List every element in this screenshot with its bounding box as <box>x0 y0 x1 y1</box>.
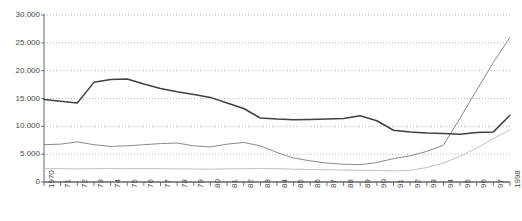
x-axis-tick-label: 83 <box>264 179 272 188</box>
x-axis-tick-label: 92 <box>414 179 422 188</box>
x-axis-tick-label: 1970 <box>48 170 56 188</box>
x-axis-tick-label: 94 <box>447 179 455 188</box>
x-axis-tick-label: 85 <box>297 179 305 188</box>
y-axis-tick-label: 20.000 <box>0 67 40 75</box>
x-axis-tick-label: 97 <box>497 179 505 188</box>
x-axis-tick-label: 88 <box>347 179 355 188</box>
data-series-line <box>44 130 510 171</box>
x-axis-tick-label: 71 <box>64 179 72 188</box>
x-axis-tick-label: 75 <box>131 179 139 188</box>
x-axis-tick-label: 79 <box>197 179 205 188</box>
data-series-line <box>44 79 510 134</box>
x-axis-tick-label: 81 <box>231 179 239 188</box>
x-axis-tick-label: 72 <box>81 179 89 188</box>
x-axis-tick-label: 80 <box>214 179 222 188</box>
x-axis-tick-label: 1998 <box>514 170 522 188</box>
y-axis-tick-label: 0 <box>0 178 40 186</box>
y-axis-tick-label: 25.000 <box>0 39 40 47</box>
x-axis-tick-label: 90 <box>380 179 388 188</box>
y-axis-tick-label: 15.000 <box>0 95 40 103</box>
x-axis-tick-label: 86 <box>314 179 322 188</box>
x-axis-tick-label: 82 <box>247 179 255 188</box>
y-axis-tick-label: 5.000 <box>0 150 40 158</box>
x-axis-tick-label: 89 <box>364 179 372 188</box>
x-axis-tick-label: 96 <box>480 179 488 188</box>
x-axis-tick-label: 95 <box>464 179 472 188</box>
x-axis-tick-label: 93 <box>430 179 438 188</box>
x-axis-tick-label: 77 <box>164 179 172 188</box>
x-axis-tick-label: 76 <box>147 179 155 188</box>
data-series-line <box>44 37 510 164</box>
x-axis-tick-label: 84 <box>281 179 289 188</box>
x-axis-tick-label: 78 <box>181 179 189 188</box>
y-axis-tick-label: 10.000 <box>0 122 40 130</box>
x-axis-tick-label: 73 <box>97 179 105 188</box>
x-axis-tick-label: 74 <box>114 179 122 188</box>
x-axis-tick-label: 91 <box>397 179 405 188</box>
x-axis-tick-label: 87 <box>330 179 338 188</box>
y-axis-tick-label: 30.000 <box>0 11 40 19</box>
